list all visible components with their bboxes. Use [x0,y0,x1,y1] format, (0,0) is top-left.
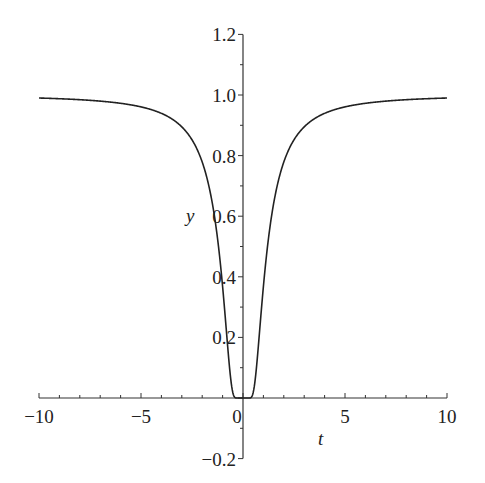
y-tick-label: 0.4 [212,267,236,288]
x-axis-label: t [318,428,324,449]
y-tick-label: 1.0 [212,85,236,106]
tick-labels: −10−50510−0.20.20.40.60.81.01.2 [24,24,456,469]
y-tick-label: 1.2 [212,24,236,45]
y-axis-label: y [184,205,195,226]
y-tick-label: 0.8 [212,146,236,167]
y-tick-label: 0.2 [212,327,236,348]
x-tick-label: 10 [438,406,457,427]
y-tick-label: −0.2 [202,449,236,470]
plot-area: −10−50510−0.20.20.40.60.81.01.2 t y [0,0,485,483]
x-tick-label: 5 [340,406,350,427]
x-tick-label: 0 [232,406,242,427]
x-tick-label: −5 [131,406,151,427]
x-tick-label: −10 [24,406,54,427]
